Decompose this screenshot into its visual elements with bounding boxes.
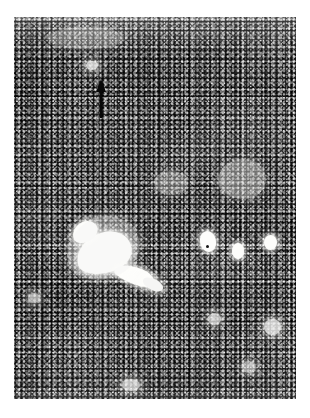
micrograph-image xyxy=(14,17,296,399)
pale-spot-above-arrow xyxy=(86,61,98,70)
small-vessel-lower-mid xyxy=(208,313,221,325)
pale-zone-upper-right xyxy=(218,159,266,199)
small-vessel-lower-right xyxy=(264,319,281,335)
figure-root xyxy=(0,0,310,418)
round-vessel-right-edge xyxy=(264,235,277,250)
small-vessel-bottom-right xyxy=(242,361,256,373)
tonal-variation-layer-fine xyxy=(14,17,296,399)
page-margin-right xyxy=(296,0,310,418)
pale-band-upper-left xyxy=(48,27,124,49)
page-margin-left xyxy=(0,0,14,418)
small-vessel-bottom-left xyxy=(28,293,40,303)
page-margin-bottom xyxy=(0,399,310,418)
arrow-marker-icon xyxy=(95,79,107,118)
vessel-lumen-dot-upper xyxy=(206,245,209,248)
small-vessel-bottom-center xyxy=(122,379,140,391)
page-margin-top xyxy=(0,0,310,17)
round-vessel-right-middle xyxy=(232,243,244,259)
pale-zone-center xyxy=(154,171,188,195)
